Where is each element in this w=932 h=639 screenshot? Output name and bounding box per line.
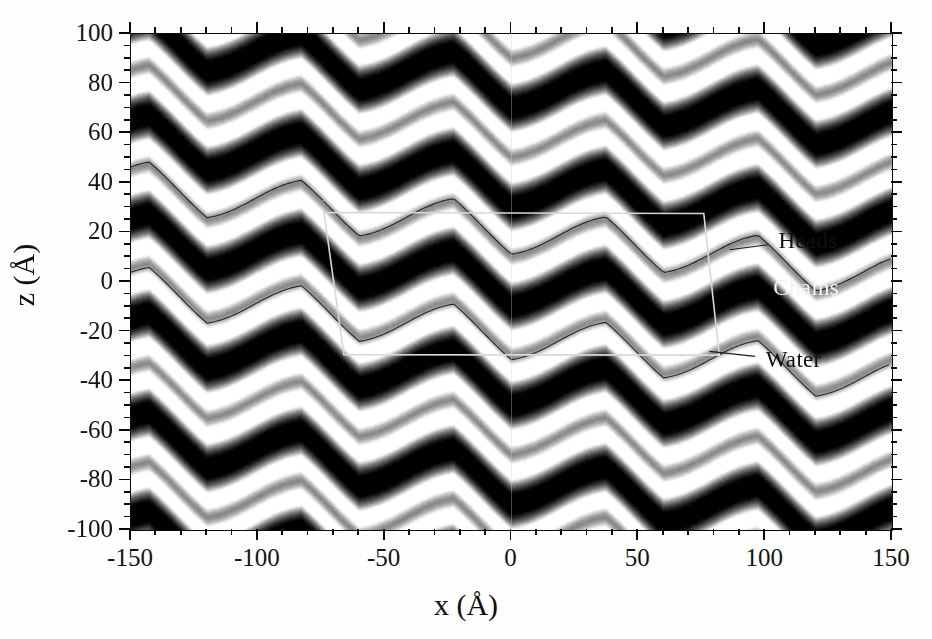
axis-tick [891, 392, 897, 394]
axis-tick [738, 529, 740, 535]
axis-tick [124, 107, 130, 109]
axis-tick [891, 305, 897, 307]
x-tick-label: 50 [577, 545, 697, 570]
axis-tick [891, 193, 897, 195]
annotation-heads: Heads [778, 229, 837, 252]
axis-tick [124, 466, 130, 468]
axis-tick [891, 280, 902, 282]
axis-tick [891, 367, 897, 369]
x-tick-label: 0 [451, 545, 571, 570]
axis-tick [560, 529, 562, 535]
axis-tick [119, 479, 130, 481]
x-axis-title: x (Å) [0, 588, 932, 622]
axis-tick [891, 317, 897, 319]
axis-tick [789, 529, 791, 535]
axis-tick [865, 529, 867, 535]
axis-tick [124, 305, 130, 307]
axis-tick [662, 27, 664, 33]
axis-tick [383, 22, 385, 33]
axis-tick [891, 355, 897, 357]
y-tick-label: -100 [0, 516, 113, 541]
axis-tick [124, 169, 130, 171]
x-tick-label: -100 [197, 545, 317, 570]
axis-tick [124, 45, 130, 47]
axis-tick [434, 529, 436, 535]
y-axis-title-text: z (Å) [7, 244, 40, 306]
axis-tick [891, 144, 897, 146]
axis-tick [124, 293, 130, 295]
axis-tick [119, 330, 130, 332]
axis-tick [586, 529, 588, 535]
axis-tick [611, 27, 613, 33]
axis-tick [891, 32, 902, 34]
axis-tick [891, 516, 897, 518]
trace-far-left-lower [131, 268, 344, 328]
axis-tick [890, 22, 892, 33]
axis-tick [124, 193, 130, 195]
axis-tick [891, 293, 897, 295]
axis-tick [256, 22, 258, 33]
axis-tick [124, 417, 130, 419]
axis-tick [124, 454, 130, 456]
axis-tick [124, 206, 130, 208]
axis-tick [124, 355, 130, 357]
axis-tick [891, 231, 902, 233]
trace-far-left-upper [131, 162, 323, 218]
axis-tick [891, 404, 897, 406]
axis-tick [891, 429, 902, 431]
axis-tick [662, 529, 664, 535]
axis-tick [891, 107, 897, 109]
axis-tick [124, 119, 130, 121]
x-tick-label: 150 [831, 545, 932, 570]
axis-tick [124, 144, 130, 146]
axis-tick [307, 27, 309, 33]
axis-tick [891, 330, 902, 332]
axis-tick [814, 529, 816, 535]
axis-tick [124, 243, 130, 245]
axis-tick [891, 268, 897, 270]
y-tick-label: -60 [0, 417, 113, 442]
axis-tick [408, 27, 410, 33]
axis-tick [789, 27, 791, 33]
y-tick-label: -80 [0, 466, 113, 491]
y-tick-label: 60 [0, 119, 113, 144]
axis-tick [281, 529, 283, 535]
density-map-plot-area: Heads Chains Water [130, 33, 893, 531]
axis-tick [357, 27, 359, 33]
axis-tick [891, 119, 897, 121]
y-tick-label: 100 [0, 20, 113, 45]
axis-tick [891, 466, 897, 468]
y-tick-label: -40 [0, 367, 113, 392]
axis-tick [124, 268, 130, 270]
axis-tick [713, 27, 715, 33]
annotation-chains: Chains [773, 276, 839, 299]
axis-tick [510, 529, 512, 540]
axis-tick [124, 57, 130, 59]
axis-tick [484, 529, 486, 535]
axis-tick [124, 367, 130, 369]
axis-tick [124, 491, 130, 493]
axis-tick [180, 529, 182, 535]
axis-tick [891, 206, 897, 208]
axis-tick [124, 156, 130, 158]
unit-cell-box-group [324, 34, 719, 530]
axis-tick [763, 529, 765, 540]
axis-tick [124, 218, 130, 220]
axis-tick [891, 169, 897, 171]
x-tick-label: 100 [704, 545, 824, 570]
y-tick-label: 80 [0, 70, 113, 95]
axis-tick [687, 27, 689, 33]
axis-tick [891, 131, 902, 133]
axis-tick [636, 22, 638, 33]
axis-tick [890, 529, 892, 540]
axis-tick [154, 27, 156, 33]
axis-tick [891, 379, 902, 381]
axis-tick [687, 529, 689, 535]
axis-tick [124, 392, 130, 394]
axis-tick [281, 27, 283, 33]
axis-tick [119, 231, 130, 233]
leader-line-heads [730, 245, 768, 250]
axis-tick [891, 417, 897, 419]
axis-tick [891, 342, 897, 344]
axis-tick [891, 57, 897, 59]
